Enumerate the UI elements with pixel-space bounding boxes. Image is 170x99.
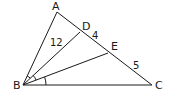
angle-arc-abd bbox=[27, 76, 30, 78]
segment-ac bbox=[57, 12, 152, 85]
point-label-d: D bbox=[82, 20, 90, 33]
point-label-c: C bbox=[155, 79, 163, 92]
angle-arc-ebc bbox=[45, 77, 46, 85]
angle-arc-dbe bbox=[33, 76, 36, 81]
point-label-e: E bbox=[111, 40, 118, 53]
measure-de: 4 bbox=[92, 30, 98, 41]
point-label-a: A bbox=[52, 0, 60, 13]
point-label-b: B bbox=[13, 79, 21, 92]
measure-bd: 12 bbox=[50, 37, 63, 48]
measure-ec: 5 bbox=[133, 60, 139, 71]
triangle-diagram: A B C D E 12 4 5 bbox=[0, 0, 170, 99]
